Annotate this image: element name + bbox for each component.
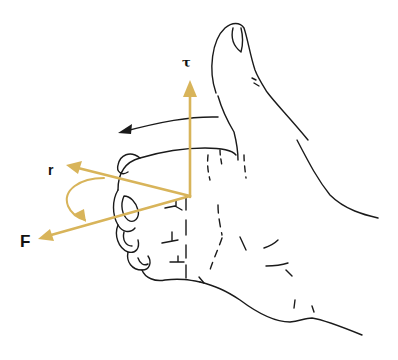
hand-outline bbox=[114, 24, 379, 336]
F-label: F bbox=[20, 233, 30, 250]
r-label: r bbox=[48, 163, 53, 177]
rotation-arrow-icon bbox=[118, 117, 218, 134]
tau-label: τ bbox=[182, 56, 191, 69]
F-arrowhead-icon bbox=[38, 229, 54, 241]
vectors bbox=[44, 92, 190, 237]
r-vector bbox=[74, 167, 190, 196]
tau-arrowhead-icon bbox=[183, 80, 197, 97]
diagram-canvas bbox=[0, 0, 398, 360]
r-arrowhead-icon bbox=[66, 161, 82, 174]
